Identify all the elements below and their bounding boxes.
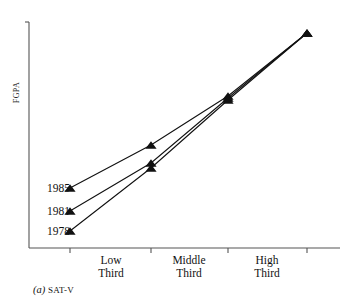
y-axis-label: FGPA — [12, 63, 21, 123]
caption-index: (a) — [33, 284, 45, 295]
series-lines — [70, 33, 307, 231]
x-axis-category-label-2: HighThird — [232, 254, 302, 280]
chart-figure: FGPA 198519811978 LowThirdMiddleThirdHig… — [0, 0, 344, 308]
x-axis-category-label-1: MiddleThird — [154, 254, 224, 280]
x-axis-category-label-0: LowThird — [76, 254, 146, 280]
chart-axes — [25, 22, 340, 253]
caption-text: SAT-V — [48, 285, 74, 295]
series-label-1978: 1978 — [30, 225, 70, 237]
series-label-1985: 1985 — [30, 182, 70, 194]
marker-1978-3 — [301, 29, 312, 36]
series-line-1985 — [70, 33, 307, 188]
series-line-1981 — [70, 33, 307, 211]
figure-caption: (a) SAT-V — [33, 284, 74, 295]
series-label-1981: 1981 — [30, 205, 70, 217]
